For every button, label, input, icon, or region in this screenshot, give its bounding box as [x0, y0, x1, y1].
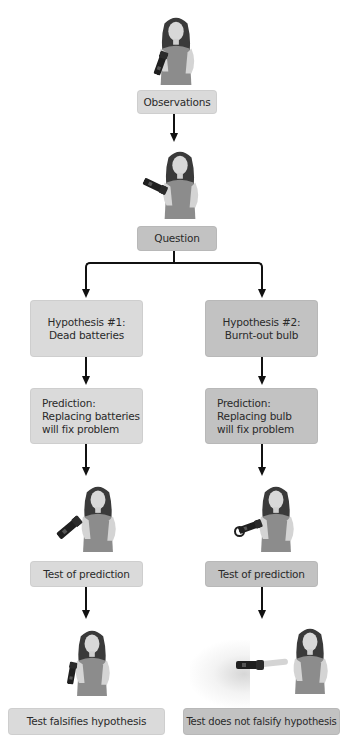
test-2-label: Test of prediction [218, 568, 305, 581]
arrow-head-icon [258, 376, 266, 385]
arrow-head-icon [170, 133, 178, 142]
result-1-label: Test falsifies hypothesis [27, 715, 146, 728]
observations-label: Observations [143, 96, 210, 109]
light-beam [190, 640, 250, 708]
arrow-head-icon [258, 467, 266, 476]
connector-line [85, 268, 87, 290]
prediction-2-node: Prediction: Replacing bulb will fix prob… [205, 388, 318, 444]
prediction-2-label: Prediction: Replacing bulb will fix prob… [217, 397, 294, 436]
woman-thinking-with-flashlight-icon [150, 148, 210, 220]
hypothesis-1-node: Hypothesis #1: Dead batteries [30, 300, 143, 357]
hypothesis-1-label: Hypothesis #1: Dead batteries [48, 316, 126, 342]
connector-line [85, 587, 87, 611]
connector-line [85, 444, 87, 468]
question-label: Question [154, 232, 199, 245]
branch-horizontal-line [90, 262, 258, 264]
woman-with-dark-flashlight-icon [64, 626, 120, 698]
result-1-node: Test falsifies hypothesis [8, 708, 165, 735]
test-1-label: Test of prediction [43, 568, 130, 581]
prediction-1-node: Prediction: Replacing batteries will fix… [30, 388, 143, 444]
connector-line [173, 114, 175, 134]
test-1-node: Test of prediction [30, 561, 143, 587]
lit-flashlight-icon [236, 660, 266, 670]
arrow-head-icon [82, 467, 90, 476]
arrow-head-icon [82, 376, 90, 385]
arrow-head-icon [258, 610, 266, 619]
connector-line [261, 587, 263, 611]
prediction-1-label: Prediction: Replacing batteries will fix… [42, 397, 140, 436]
hypothesis-2-node: Hypothesis #2: Burnt-out bulb [205, 300, 318, 357]
connector-line [261, 268, 263, 290]
hypothesis-2-label: Hypothesis #2: Burnt-out bulb [223, 316, 301, 342]
test-2-node: Test of prediction [205, 561, 318, 587]
observations-node: Observations [137, 90, 217, 114]
question-node: Question [137, 226, 217, 251]
connector-line [261, 444, 263, 468]
bulb-ring-icon [234, 526, 245, 537]
woman-replacing-bulb-icon [248, 482, 304, 554]
arrow-head-icon [82, 289, 90, 298]
woman-with-lit-flashlight-icon [282, 622, 338, 698]
arrow-head-icon [82, 610, 90, 619]
result-2-label: Test does not falsify hypothesis [186, 715, 336, 728]
connector-line [85, 357, 87, 377]
result-2-node: Test does not falsify hypothesis [183, 708, 340, 735]
woman-replacing-batteries-icon [70, 482, 126, 554]
woman-holding-flashlight-icon [146, 14, 206, 86]
arrow-head-icon [258, 289, 266, 298]
connector-line [261, 357, 263, 377]
